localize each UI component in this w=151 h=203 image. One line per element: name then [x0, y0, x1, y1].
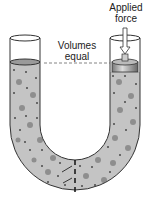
applied-force-label-line2: force	[104, 13, 148, 24]
applied-force-label: Applied force	[104, 2, 148, 24]
piston	[112, 54, 138, 72]
u-tube-diagram	[0, 0, 151, 203]
volumes-equal-label-line2: equal	[52, 51, 102, 62]
applied-force-label-line1: Applied	[104, 2, 148, 13]
volumes-equal-label-line1: Volumes	[52, 40, 102, 51]
volumes-equal-label: Volumes equal	[52, 40, 102, 62]
